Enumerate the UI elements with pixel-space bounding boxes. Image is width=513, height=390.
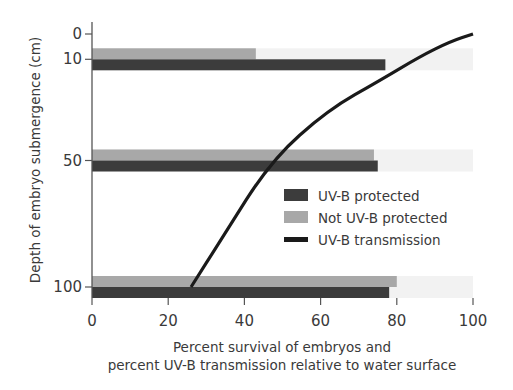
x-tick-label: 100 [459, 312, 488, 330]
x-tick-label: 40 [235, 312, 254, 330]
legend-label: UV-B protected [318, 188, 420, 204]
x-tick-label: 20 [159, 312, 178, 330]
legend-item: UV-B protected [284, 188, 420, 204]
x-axis-title-line2: percent UV-B transmission relative to wa… [108, 357, 457, 373]
legend-swatch [284, 211, 308, 223]
y-axis-title: Depth of embryo submergence (cm) [27, 37, 43, 283]
bar-protected [92, 161, 378, 172]
bar-not-protected [92, 48, 256, 59]
bar-protected [92, 59, 385, 70]
bar-protected [92, 287, 389, 298]
x-tick-label: 80 [387, 312, 406, 330]
bar-not-protected [92, 276, 397, 287]
legend-label: UV-B transmission [318, 232, 441, 248]
chart: 01050100 020406080100 Percent survival o… [0, 0, 513, 390]
y-tick-label: 0 [72, 25, 82, 43]
legend-label: Not UV-B protected [318, 210, 447, 226]
y-ticks: 01050100 [53, 25, 92, 296]
x-ticks: 020406080100 [87, 298, 487, 330]
x-tick-label: 60 [311, 312, 330, 330]
legend-line-swatch [284, 237, 308, 242]
y-tick-label: 50 [63, 152, 82, 170]
bar-not-protected [92, 150, 374, 161]
legend-item: UV-B transmission [284, 232, 441, 248]
legend-item: Not UV-B protected [284, 210, 447, 226]
x-axis-title-line1: Percent survival of embryos and [173, 339, 391, 355]
x-tick-label: 0 [87, 312, 97, 330]
legend-swatch [284, 189, 308, 201]
legend: UV-B protectedNot UV-B protectedUV-B tra… [284, 188, 447, 248]
bars-group [92, 48, 473, 298]
y-tick-label: 100 [53, 278, 82, 296]
y-tick-label: 10 [63, 50, 82, 68]
